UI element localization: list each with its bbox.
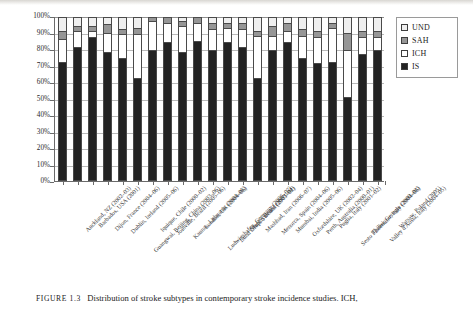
bar-segment-ich[interactable] [209, 29, 216, 50]
bar-segment-ich[interactable] [119, 34, 126, 58]
bar-segment-und[interactable] [254, 18, 261, 31]
bar-segment-sah[interactable] [59, 31, 66, 39]
bar-segment-is[interactable] [59, 62, 66, 180]
bar-column[interactable] [328, 17, 337, 181]
bar-segment-is[interactable] [134, 78, 141, 180]
bar-segment-is[interactable] [374, 50, 381, 180]
bar-segment-is[interactable] [359, 54, 366, 180]
bar-column[interactable] [58, 17, 67, 181]
bar-segment-ich[interactable] [59, 39, 66, 62]
bar-segment-is[interactable] [89, 37, 96, 180]
bar-segment-ich[interactable] [104, 33, 111, 52]
stacked-bar[interactable] [118, 17, 127, 181]
legend-item-und[interactable]: UND [401, 21, 453, 34]
bar-segment-is[interactable] [104, 52, 111, 180]
bar-segment-und[interactable] [359, 18, 366, 31]
bar-segment-und[interactable] [269, 18, 276, 26]
stacked-bar[interactable] [178, 17, 187, 181]
bar-column[interactable] [88, 17, 97, 181]
bar-segment-ich[interactable] [299, 36, 306, 59]
stacked-bar[interactable] [283, 17, 292, 181]
bar-segment-und[interactable] [134, 18, 141, 28]
bar-column[interactable] [298, 17, 307, 181]
stacked-bar[interactable] [193, 17, 202, 181]
stacked-bar[interactable] [253, 17, 262, 181]
bar-segment-und[interactable] [374, 18, 381, 31]
bar-segment-ich[interactable] [179, 26, 186, 52]
bar-segment-und[interactable] [119, 18, 126, 29]
bar-segment-sah[interactable] [284, 23, 291, 31]
bar-column[interactable] [118, 17, 127, 181]
bar-segment-is[interactable] [164, 42, 171, 180]
bar-segment-is[interactable] [344, 97, 351, 180]
stacked-bar[interactable] [373, 17, 382, 181]
bar-segment-ich[interactable] [314, 37, 321, 63]
bar-column[interactable] [103, 17, 112, 181]
bar-column[interactable] [148, 17, 157, 181]
stacked-bar[interactable] [268, 17, 277, 181]
stacked-bar[interactable] [238, 17, 247, 181]
legend-item-sah[interactable]: SAH [401, 34, 453, 47]
stacked-bar[interactable] [358, 17, 367, 181]
bar-column[interactable] [238, 17, 247, 181]
bar-column[interactable] [223, 17, 232, 181]
bar-segment-ich[interactable] [359, 37, 366, 53]
stacked-bar[interactable] [163, 17, 172, 181]
stacked-bar[interactable] [328, 17, 337, 181]
bar-segment-ich[interactable] [269, 36, 276, 51]
bar-column[interactable] [208, 17, 217, 181]
stacked-bar[interactable] [313, 17, 322, 181]
bar-column[interactable] [133, 17, 142, 181]
bar-segment-ich[interactable] [74, 31, 81, 47]
bar-segment-is[interactable] [119, 58, 126, 180]
stacked-bar[interactable] [88, 17, 97, 181]
bar-segment-is[interactable] [194, 41, 201, 180]
stacked-bar[interactable] [343, 17, 352, 181]
stacked-bar[interactable] [73, 17, 82, 181]
legend-item-ich[interactable]: ICH [401, 47, 453, 60]
stacked-bar[interactable] [58, 17, 67, 181]
stacked-bar[interactable] [103, 17, 112, 181]
bar-segment-ich[interactable] [194, 23, 201, 41]
bar-segment-und[interactable] [59, 18, 66, 31]
bar-segment-is[interactable] [149, 50, 156, 180]
bar-segment-sah[interactable] [104, 24, 111, 32]
bar-segment-is[interactable] [329, 62, 336, 180]
bar-segment-ich[interactable] [224, 28, 231, 43]
bar-segment-ich[interactable] [134, 34, 141, 78]
stacked-bar[interactable] [298, 17, 307, 181]
bar-segment-is[interactable] [284, 42, 291, 180]
bar-segment-ich[interactable] [149, 21, 156, 50]
bar-column[interactable] [358, 17, 367, 181]
bar-segment-is[interactable] [314, 63, 321, 180]
bar-column[interactable] [163, 17, 172, 181]
stacked-bar[interactable] [133, 17, 142, 181]
bar-column[interactable] [73, 17, 82, 181]
bar-segment-ich[interactable] [239, 29, 246, 47]
bar-segment-sah[interactable] [269, 26, 276, 36]
bar-segment-und[interactable] [299, 18, 306, 29]
bar-segment-und[interactable] [89, 18, 96, 26]
bar-column[interactable] [343, 17, 352, 181]
bar-column[interactable] [268, 17, 277, 181]
bar-segment-und[interactable] [314, 18, 321, 31]
bar-column[interactable] [253, 17, 262, 181]
stacked-bar[interactable] [223, 17, 232, 181]
bar-segment-is[interactable] [269, 50, 276, 180]
bar-column[interactable] [373, 17, 382, 181]
bar-segment-ich[interactable] [329, 28, 336, 62]
bar-column[interactable] [193, 17, 202, 181]
bar-segment-ich[interactable] [164, 23, 171, 42]
bar-segment-is[interactable] [254, 78, 261, 180]
bar-segment-is[interactable] [179, 52, 186, 180]
stacked-bar[interactable] [208, 17, 217, 181]
bar-segment-is[interactable] [239, 47, 246, 180]
bar-segment-und[interactable] [74, 18, 81, 26]
bar-segment-is[interactable] [224, 42, 231, 180]
bar-segment-is[interactable] [74, 47, 81, 180]
bar-segment-ich[interactable] [254, 36, 261, 78]
bar-segment-ich[interactable] [284, 31, 291, 42]
bar-column[interactable] [178, 17, 187, 181]
bar-column[interactable] [313, 17, 322, 181]
bar-segment-ich[interactable] [344, 50, 351, 97]
